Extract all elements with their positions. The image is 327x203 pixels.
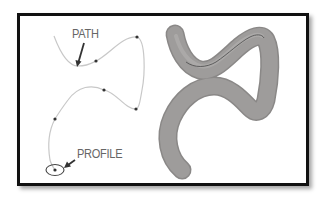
path-label: PATH (72, 28, 99, 40)
profile-label: PROFILE (77, 148, 122, 160)
control-point (94, 59, 97, 62)
profile-circle (46, 165, 64, 176)
path-arrow-icon (76, 43, 85, 67)
control-point (53, 117, 56, 120)
control-point (134, 107, 137, 110)
swept-tube (168, 34, 270, 170)
sweep-diagram (0, 0, 327, 203)
control-point (102, 88, 105, 91)
control-point (135, 35, 138, 38)
profile-arrow-icon (64, 160, 75, 168)
control-points (53, 35, 138, 120)
